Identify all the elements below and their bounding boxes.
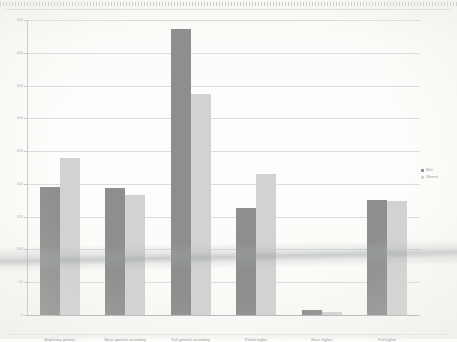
y-axis-tick-label: 300 (17, 116, 23, 120)
legend-label: Women (426, 175, 438, 179)
gridline (27, 315, 420, 316)
y-axis-tick-mark (24, 118, 27, 119)
y-axis-tick-label: 0 (21, 313, 23, 317)
y-axis-tick-mark (24, 315, 27, 316)
y-axis-tick-mark (24, 217, 27, 218)
y-axis-tick-mark (24, 282, 27, 283)
y-axis-tick-mark (24, 86, 27, 87)
bar-men[interactable] (171, 29, 191, 315)
bar-men[interactable] (40, 187, 60, 315)
bar-men[interactable] (367, 200, 387, 315)
y-axis-tick-label: 50 (19, 280, 23, 284)
x-axis-category-label: Full general secondary (172, 338, 210, 342)
plot-area: 050100150200250300350400450Beginning gen… (27, 20, 420, 315)
x-axis-category-label: Basic general secondary (104, 338, 146, 342)
legend-item[interactable]: Women (421, 175, 438, 179)
y-axis-tick-mark (24, 249, 27, 250)
gridline (27, 249, 420, 250)
gridline (27, 282, 420, 283)
y-axis-tick-label: 100 (17, 247, 23, 251)
y-axis-tick-mark (24, 151, 27, 152)
y-axis-tick-mark (24, 53, 27, 54)
y-axis-tick-label: 400 (17, 51, 23, 55)
gridline (27, 86, 420, 87)
gridline (27, 118, 420, 119)
bar-women[interactable] (387, 201, 407, 315)
y-axis-tick-label: 200 (17, 182, 23, 186)
x-axis-category-label: Basic higher (311, 338, 332, 342)
bar-group (39, 158, 81, 315)
x-axis-category-label: Partial higher (245, 338, 267, 342)
gridline (27, 184, 420, 185)
y-axis-tick-mark (24, 20, 27, 21)
bar-men[interactable] (236, 208, 256, 315)
x-axis-category-label: Beginning general (44, 338, 75, 342)
legend-swatch-icon (421, 176, 424, 179)
gridline (27, 20, 420, 21)
bar-women[interactable] (322, 312, 342, 315)
bar-group (366, 200, 408, 315)
bar-men[interactable] (302, 310, 322, 315)
gridline (27, 53, 420, 54)
gridline (27, 217, 420, 218)
y-axis-tick-label: 250 (17, 149, 23, 153)
bar-women[interactable] (191, 94, 211, 315)
y-axis-tick-label: 150 (17, 215, 23, 219)
bar-women[interactable] (125, 195, 145, 315)
legend-item[interactable]: Men (421, 168, 438, 172)
x-axis-category-label: Full higher (378, 338, 396, 342)
bar-group (301, 310, 343, 315)
bar-group (235, 174, 277, 315)
y-axis-tick-mark (24, 184, 27, 185)
bar-women[interactable] (60, 158, 80, 315)
legend-label: Men (426, 168, 433, 172)
gridline (27, 151, 420, 152)
chart-legend: MenWomen (421, 168, 438, 179)
bar-group (170, 29, 212, 315)
bar-men[interactable] (105, 188, 125, 315)
bar-women[interactable] (256, 174, 276, 315)
y-axis-tick-label: 450 (17, 18, 23, 22)
y-axis-tick-label: 350 (17, 84, 23, 88)
bar-group (104, 188, 146, 315)
legend-swatch-icon (421, 169, 424, 172)
